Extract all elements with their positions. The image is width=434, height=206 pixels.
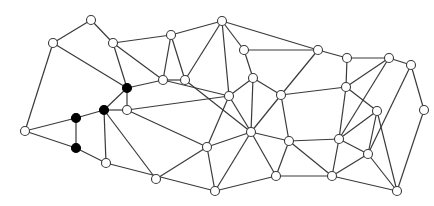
- graph-edge: [207, 147, 215, 191]
- graph-node: [211, 187, 220, 196]
- graph-edge: [289, 139, 339, 141]
- graph-node: [87, 16, 96, 25]
- graph-node: [328, 172, 337, 181]
- graph-edge: [289, 141, 332, 176]
- graph-edge: [163, 35, 171, 80]
- graph-node-highlighted: [72, 114, 81, 123]
- graph-edge: [215, 176, 276, 191]
- graph-diagram: [0, 0, 434, 206]
- graph-edge: [251, 78, 253, 132]
- graph-edge: [127, 80, 163, 88]
- graph-edge: [251, 132, 289, 141]
- graph-edge: [53, 20, 91, 43]
- graph-edges: [25, 20, 424, 191]
- graph-node: [272, 172, 281, 181]
- graph-edge: [25, 118, 76, 131]
- graph-edge: [281, 95, 289, 141]
- graph-edge: [222, 21, 229, 96]
- graph-edge: [281, 87, 346, 95]
- graph-node-highlighted: [72, 144, 81, 153]
- graph-edge: [222, 21, 318, 50]
- graph-node: [420, 106, 429, 115]
- graph-edge: [332, 139, 339, 176]
- graph-node: [373, 107, 382, 116]
- graph-node: [240, 46, 249, 55]
- graph-node: [342, 83, 351, 92]
- graph-edge: [222, 21, 244, 50]
- graph-edge: [113, 35, 171, 43]
- graph-edge: [207, 132, 251, 147]
- graph-node: [225, 92, 234, 101]
- graph-edge: [346, 58, 389, 87]
- graph-edge: [104, 110, 106, 163]
- graph-node: [335, 135, 344, 144]
- graph-node: [21, 127, 30, 136]
- graph-node: [181, 76, 190, 85]
- graph-node: [247, 128, 256, 137]
- graph-edge: [113, 43, 163, 80]
- graph-edge: [215, 132, 251, 191]
- graph-node: [203, 143, 212, 152]
- graph-node: [393, 187, 402, 196]
- graph-edge: [346, 87, 377, 111]
- graph-edge: [25, 43, 53, 131]
- graph-edge: [368, 111, 377, 154]
- graph-node: [102, 159, 111, 168]
- graph-node: [249, 74, 258, 83]
- graph-node: [385, 54, 394, 63]
- graph-edge: [229, 96, 251, 132]
- graph-edge: [207, 96, 229, 147]
- graph-node: [49, 39, 58, 48]
- graph-edge: [53, 43, 127, 88]
- graph-node: [343, 54, 352, 63]
- graph-edge: [339, 111, 377, 139]
- graph-edge: [171, 35, 185, 80]
- graph-edge: [156, 147, 207, 179]
- graph-node-highlighted: [100, 106, 109, 115]
- graph-node: [167, 31, 176, 40]
- graph-node: [109, 39, 118, 48]
- graph-edge: [411, 65, 424, 110]
- graph-node: [314, 46, 323, 55]
- graph-node: [123, 106, 132, 115]
- graph-edge: [281, 50, 318, 95]
- graph-node: [285, 137, 294, 146]
- graph-node: [364, 150, 373, 159]
- graph-edge: [251, 132, 276, 176]
- graph-edge: [127, 110, 207, 147]
- graph-edge: [276, 141, 289, 176]
- graph-edge: [332, 154, 368, 176]
- graph-node-highlighted: [123, 84, 132, 93]
- graph-edge: [397, 110, 424, 191]
- graph-node: [218, 17, 227, 26]
- graph-edge: [251, 95, 281, 132]
- graph-edge: [185, 80, 251, 132]
- graph-node: [159, 76, 168, 85]
- graph-node: [407, 61, 416, 70]
- graph-node: [152, 175, 161, 184]
- graph-edge: [339, 87, 346, 139]
- graph-edge: [25, 131, 76, 148]
- graph-node: [277, 91, 286, 100]
